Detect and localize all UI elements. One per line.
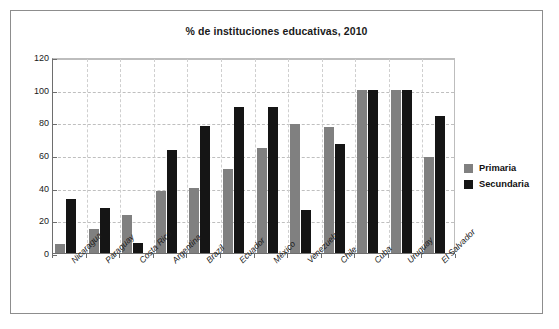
x-tick-mark xyxy=(287,254,288,258)
legend-item-primaria[interactable]: Primaria xyxy=(464,163,544,173)
x-tick-mark xyxy=(86,254,87,258)
x-tick-mark xyxy=(119,254,120,258)
bar-group xyxy=(255,59,289,253)
x-tick-mark xyxy=(455,254,456,258)
bar-group xyxy=(221,59,255,253)
bar-primaria-venezuela[interactable] xyxy=(290,124,300,253)
legend-swatch-icon xyxy=(464,164,473,173)
bar-secundaria-ecuador[interactable] xyxy=(234,107,244,253)
bar-group xyxy=(422,59,456,253)
bar-group xyxy=(389,59,423,253)
x-tick-mark xyxy=(153,254,154,258)
y-tick-label: 60 xyxy=(15,151,49,161)
x-tick-mark xyxy=(354,254,355,258)
y-tick-label: 0 xyxy=(15,249,49,259)
bar-group xyxy=(288,59,322,253)
y-tick-label: 100 xyxy=(15,86,49,96)
bar-secundaria-uruguay[interactable] xyxy=(402,90,412,253)
x-tick-mark xyxy=(186,254,187,258)
bar-group xyxy=(187,59,221,253)
bar-primaria-uruguay[interactable] xyxy=(391,90,401,253)
legend-label: Primaria xyxy=(479,163,516,173)
chart-figure: % de instituciones educativas, 2010 0204… xyxy=(10,10,543,314)
bar-primaria-ecuador[interactable] xyxy=(223,169,233,253)
bar-secundaria-el-salvador[interactable] xyxy=(435,116,445,253)
chart-title: % de instituciones educativas, 2010 xyxy=(11,25,542,37)
x-tick-mark xyxy=(254,254,255,258)
y-tick-label: 20 xyxy=(15,216,49,226)
bar-secundaria-venezuela[interactable] xyxy=(301,210,311,253)
bar-group xyxy=(154,59,188,253)
chart-legend: PrimariaSecundaria xyxy=(464,163,544,195)
x-tick-mark xyxy=(388,254,389,258)
legend-item-secundaria[interactable]: Secundaria xyxy=(464,179,544,189)
bar-secundaria-nicaragua[interactable] xyxy=(66,199,76,253)
x-axis: NicaraguaParaguayCosta RicaArgentinaBraz… xyxy=(52,254,455,312)
y-tick-label: 40 xyxy=(15,184,49,194)
bar-secundaria-cuba[interactable] xyxy=(368,90,378,253)
x-tick-mark xyxy=(421,254,422,258)
x-tick-mark xyxy=(321,254,322,258)
bar-primaria-cuba[interactable] xyxy=(357,90,367,253)
y-tick-label: 120 xyxy=(15,53,49,63)
bar-group xyxy=(53,59,87,253)
legend-label: Secundaria xyxy=(479,179,529,189)
bar-group xyxy=(120,59,154,253)
bar-group xyxy=(87,59,121,253)
y-tick-label: 80 xyxy=(15,118,49,128)
bar-secundaria-brazil[interactable] xyxy=(200,126,210,253)
bar-secundaria-méxico[interactable] xyxy=(268,107,278,253)
x-tick-mark xyxy=(220,254,221,258)
bar-group xyxy=(322,59,356,253)
bar-primaria-nicaragua[interactable] xyxy=(55,244,65,253)
plot-area xyxy=(52,58,455,254)
y-axis: 020406080100120 xyxy=(11,58,49,254)
legend-swatch-icon xyxy=(464,180,473,189)
bar-secundaria-paraguay[interactable] xyxy=(100,208,110,253)
x-tick-mark xyxy=(52,254,53,258)
bar-group xyxy=(355,59,389,253)
